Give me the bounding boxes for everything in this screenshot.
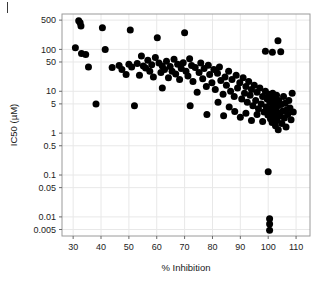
x-tick-label: 100: [261, 242, 276, 252]
x-tick-label: 80: [207, 242, 217, 252]
data-point: [262, 48, 269, 55]
y-tick-label: 0.5: [43, 141, 56, 151]
data-point: [212, 86, 219, 93]
data-point: [134, 60, 141, 67]
x-tick-label: 70: [180, 242, 190, 252]
data-point: [123, 71, 130, 78]
data-point: [150, 73, 157, 80]
y-tick-label: 0.05: [38, 183, 56, 193]
data-point: [131, 102, 138, 109]
data-point: [274, 37, 281, 44]
y-tick-label: 0.01: [38, 212, 56, 222]
data-point: [275, 126, 282, 133]
x-axis-ticks: 30405060708090100110: [68, 236, 303, 252]
data-point: [77, 23, 84, 30]
data-point: [266, 227, 273, 234]
data-point: [109, 64, 116, 71]
data-point: [237, 114, 244, 121]
data-point: [277, 48, 284, 55]
data-point: [288, 116, 295, 123]
data-point: [285, 97, 292, 104]
data-point: [165, 74, 172, 81]
data-point: [231, 108, 238, 115]
data-point: [154, 34, 161, 41]
x-tick-label: 40: [96, 242, 106, 252]
data-point: [85, 63, 92, 70]
x-tick-label: 90: [235, 242, 245, 252]
data-point: [199, 75, 206, 82]
data-point: [159, 84, 166, 91]
data-point: [172, 70, 179, 77]
x-tick-label: 50: [124, 242, 134, 252]
data-point: [290, 108, 297, 115]
data-point: [148, 61, 155, 68]
scatter-plot: 5001005010510.50.10.050.010.005 30405060…: [0, 0, 329, 283]
y-tick-label: 100: [41, 45, 56, 55]
data-point: [176, 76, 183, 83]
data-point: [82, 51, 89, 58]
data-point: [283, 124, 290, 131]
data-point: [223, 82, 230, 89]
data-point: [226, 104, 233, 111]
data-point: [214, 70, 221, 77]
data-point: [189, 78, 196, 85]
data-point: [208, 79, 215, 86]
data-point: [220, 91, 227, 98]
x-tick-label: 30: [68, 242, 78, 252]
data-point: [225, 68, 232, 75]
y-tick-label: 0.005: [33, 225, 56, 235]
y-tick-label: 10: [46, 86, 56, 96]
data-point: [242, 110, 249, 117]
data-point: [93, 100, 100, 107]
data-point: [186, 55, 193, 62]
data-point: [215, 99, 222, 106]
data-point: [259, 118, 266, 125]
x-axis-title: % Inhibition: [161, 262, 210, 273]
data-point: [233, 72, 240, 79]
data-point: [247, 92, 254, 99]
data-point: [248, 117, 255, 124]
data-point: [220, 112, 227, 119]
data-point: [127, 27, 134, 34]
figure-container: 5001005010510.50.10.050.010.005 30405060…: [0, 0, 329, 283]
data-point: [184, 73, 191, 80]
data-point: [205, 62, 212, 69]
y-axis-ticks: 5001005010510.50.10.050.010.005: [33, 15, 62, 234]
data-point: [187, 102, 194, 109]
y-tick-label: 0.1: [43, 170, 56, 180]
x-tick-label: 110: [289, 242, 303, 252]
data-point: [138, 52, 145, 59]
y-axis-title: IC50 (µM): [8, 104, 19, 146]
data-point: [216, 63, 223, 70]
data-point: [99, 24, 106, 31]
x-tick-label: 60: [152, 242, 162, 252]
data-point: [102, 46, 109, 53]
data-point: [265, 168, 272, 175]
data-point: [254, 111, 261, 118]
data-point: [269, 49, 276, 56]
y-tick-label: 50: [46, 57, 56, 67]
data-point: [136, 72, 143, 79]
data-point: [203, 111, 210, 118]
y-tick-label: 500: [41, 15, 56, 25]
data-point: [194, 89, 201, 96]
data-point: [231, 93, 238, 100]
data-point: [289, 90, 296, 97]
data-point: [180, 59, 187, 66]
y-tick-label: 5: [51, 99, 56, 109]
data-point: [266, 220, 273, 227]
data-point: [72, 44, 79, 51]
y-tick-label: 1: [51, 128, 56, 138]
data-point: [181, 29, 188, 36]
